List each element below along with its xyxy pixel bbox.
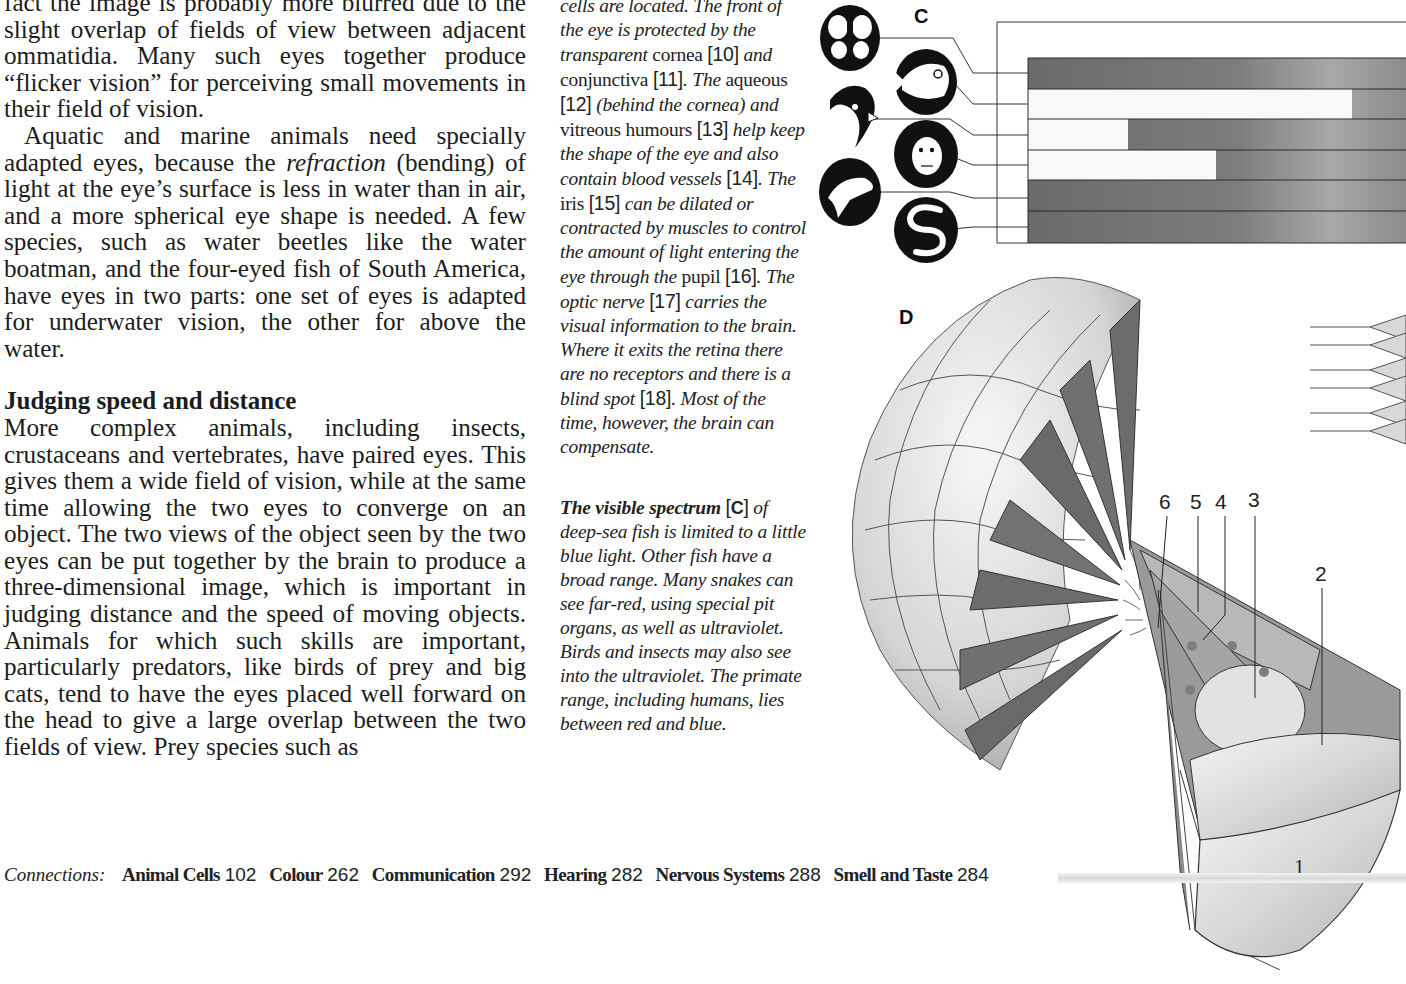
link-name: Colour [269, 864, 322, 885]
text-span: (bending) of light at the eye’s surface … [4, 149, 526, 362]
spectrum-bands [1028, 58, 1406, 243]
page-number: 262 [327, 864, 359, 885]
light-rays [1310, 315, 1406, 444]
connection-link-animal-cells[interactable]: Animal Cells 102 [122, 864, 256, 885]
text-span: iris [560, 193, 589, 214]
connections-label: Connections: [4, 864, 105, 885]
link-name: Smell and Taste [834, 864, 953, 885]
connection-link-nervous-systems[interactable]: Nervous Systems 288 [656, 864, 821, 885]
text-span: . The [758, 168, 796, 189]
snake-icon [894, 197, 958, 263]
link-name: Nervous Systems [656, 864, 785, 885]
part-label-2: 2 [1315, 562, 1327, 586]
paragraph-paired-eyes: More complex animals, including insects,… [4, 415, 526, 761]
fish-icon [895, 49, 957, 115]
part-label-6: 6 [1159, 490, 1171, 514]
text-span: aqueous [721, 69, 788, 90]
connections-footer: Connections: Animal Cells 102 Colour 262… [4, 864, 1054, 886]
ref-number: [10] [707, 43, 739, 65]
link-name: Communication [372, 864, 495, 885]
ref-number: [11] [653, 68, 683, 90]
page-number: 284 [957, 864, 989, 885]
text-span: pupil [677, 266, 725, 287]
caption-visible-spectrum: The visible spectrum [C] of deep-sea fis… [560, 495, 806, 736]
link-name: Hearing [544, 864, 606, 885]
part-label-3: 3 [1248, 488, 1260, 512]
page-number: 282 [611, 864, 643, 885]
paragraph-aquatic: Aquatic and marine animals need speciall… [4, 123, 526, 362]
part-label-4: 4 [1215, 490, 1227, 514]
text-span: . The [683, 69, 721, 90]
main-text-column: fact the image is probably more blurred … [4, 0, 526, 761]
bird-icon [830, 86, 878, 148]
page-number: 292 [500, 864, 532, 885]
text-span: vitreous humours [560, 119, 697, 140]
ommatidium-section [1130, 540, 1400, 970]
ref-number: [14] [726, 167, 758, 189]
text-span: and [739, 44, 772, 65]
text-span: conjunctiva [560, 69, 653, 90]
text-span: cells are located. The front [560, 0, 762, 16]
primate-icon [894, 120, 958, 188]
page-number: 102 [225, 864, 257, 885]
connection-link-colour[interactable]: Colour 262 [269, 864, 359, 885]
section-heading: Judging speed and distance [4, 388, 526, 415]
connection-link-communication[interactable]: Communication 292 [372, 864, 532, 885]
caption-column: cells are located. The front of the eye … [560, 0, 806, 736]
page-number: 288 [789, 864, 821, 885]
text-span: transparent [560, 44, 648, 65]
paragraph-compound-eye: fact the image is probably more blurred … [4, 0, 526, 123]
caption-title: The visible spectrum [560, 497, 721, 518]
text-span: cornea [648, 44, 708, 65]
caption-body: of deep-sea fish is limited to a little … [560, 497, 806, 734]
emphasis-refraction: refraction [286, 149, 386, 176]
footer-divider-bar [1058, 873, 1406, 883]
connection-link-smell-and-taste[interactable]: Smell and Taste 284 [834, 864, 989, 885]
figure-c-spectrum-chart [810, 0, 1406, 270]
caption-eye-structure: cells are located. The front of the eye … [560, 0, 806, 459]
part-label-5: 5 [1190, 490, 1202, 514]
connection-link-hearing[interactable]: Hearing 282 [544, 864, 643, 885]
deep-sea-fish-icon [819, 158, 881, 226]
text-span: (behind the cornea) and [592, 94, 779, 115]
ref-number: [12] [560, 93, 592, 115]
butterfly-icon [820, 5, 880, 71]
ref-number: [15] [589, 192, 621, 214]
ref-number: [16] [725, 265, 757, 287]
ref-number: [13] [697, 118, 729, 140]
ref-number: [18] [640, 387, 672, 409]
figure-ref: C [731, 498, 744, 518]
ref-number: [17] [649, 290, 681, 312]
link-name: Animal Cells [122, 864, 220, 885]
